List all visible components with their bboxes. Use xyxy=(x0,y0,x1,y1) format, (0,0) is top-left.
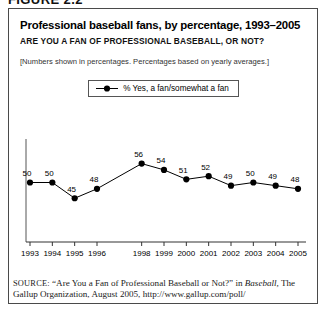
data-point-label: 49 xyxy=(268,172,277,181)
x-axis-tick-label: 2004 xyxy=(267,249,285,258)
x-axis-tick-label: 1995 xyxy=(66,249,84,258)
x-axis-tick-label: 2001 xyxy=(200,249,218,258)
data-point xyxy=(139,161,145,167)
data-point-label: 48 xyxy=(291,175,300,184)
data-point-label: 45 xyxy=(67,185,76,194)
data-point xyxy=(183,176,189,182)
source-kicker: SOURCE: xyxy=(13,279,50,288)
chart-legend: % Yes, a fan/somewhat a fan xyxy=(20,80,307,97)
data-point xyxy=(228,183,234,189)
data-point xyxy=(94,186,100,192)
chart-title: Professional baseball fans, by percentag… xyxy=(20,18,307,32)
x-axis-tick-label: 1998 xyxy=(133,249,151,258)
line-chart-svg: 505045485654515249504948 199319941995199… xyxy=(20,137,308,272)
chart-subtitle: ARE YOU A FAN OF PROFESSIONAL BASEBALL, … xyxy=(20,35,307,48)
legend-marker-icon xyxy=(96,84,118,93)
source-part1: “Are You a Fan of Professional Baseball … xyxy=(50,278,245,288)
source-note: SOURCE: “Are You a Fan of Professional B… xyxy=(13,278,305,301)
figure-label: FIGURE 2.2 xyxy=(8,0,83,7)
data-point xyxy=(161,167,167,173)
data-point-label: 56 xyxy=(134,150,143,159)
chart-x-tick-labels: 1993199419951996199819992000200120022003… xyxy=(21,249,307,258)
x-axis-tick-label: 1999 xyxy=(155,249,173,258)
data-point-label: 50 xyxy=(45,169,54,178)
x-axis-tick-label: 2005 xyxy=(289,249,307,258)
x-axis-tick-label: 2003 xyxy=(244,249,262,258)
data-point-label: 50 xyxy=(246,169,255,178)
data-point-label: 48 xyxy=(90,175,99,184)
legend-item: % Yes, a fan/somewhat a fan xyxy=(88,80,239,97)
x-axis-tick-label: 2000 xyxy=(177,249,195,258)
figure-box: Professional baseball fans, by percentag… xyxy=(8,8,318,304)
data-point-label: 50 xyxy=(23,169,32,178)
data-point-label: 51 xyxy=(179,166,188,175)
x-axis-tick-label: 1994 xyxy=(43,249,61,258)
data-point xyxy=(72,195,78,201)
data-point-label: 52 xyxy=(201,163,210,172)
x-axis-tick-label: 1996 xyxy=(88,249,106,258)
data-point-label: 49 xyxy=(224,172,233,181)
chart-series xyxy=(27,161,301,202)
x-axis-tick-label: 2002 xyxy=(222,249,240,258)
source-italic-title: Baseball, xyxy=(245,278,279,288)
chart-note: [Numbers shown in percentages. Percentag… xyxy=(20,56,307,68)
data-point xyxy=(49,179,55,185)
data-point xyxy=(273,183,279,189)
data-point xyxy=(27,179,33,185)
data-point xyxy=(295,186,301,192)
chart-point-labels: 505045485654515249504948 xyxy=(23,150,300,194)
data-point xyxy=(206,173,212,179)
plot-area: 505045485654515249504948 199319941995199… xyxy=(20,137,308,272)
data-point xyxy=(250,179,256,185)
legend-label: % Yes, a fan/somewhat a fan xyxy=(123,84,229,93)
figure-root: FIGURE 2.2 Professional baseball fans, b… xyxy=(0,0,334,312)
data-point-label: 54 xyxy=(157,156,166,165)
x-axis-tick-label: 1993 xyxy=(21,249,39,258)
